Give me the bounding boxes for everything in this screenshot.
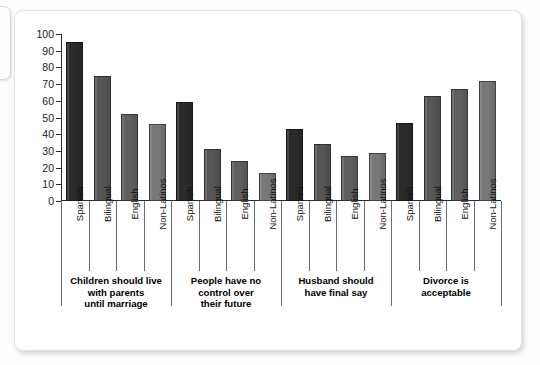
group-caption: Husband shouldhave final say <box>281 275 391 298</box>
bar-series-container <box>61 34 501 201</box>
group-caption-container: Children should livewith parentsuntil ma… <box>61 201 501 306</box>
y-axis-tick-label: 90 <box>42 45 54 56</box>
group-caption-line: with parents <box>61 287 171 299</box>
y-axis-tick-label: 60 <box>42 96 54 107</box>
plot-area: 1009080706050403020100 <box>61 34 501 211</box>
group-caption-line: People have no <box>171 275 281 287</box>
group-caption: Children should livewith parentsuntil ma… <box>61 275 171 310</box>
group-divider <box>501 201 502 306</box>
group-caption-line: control over <box>171 287 281 299</box>
chart-panel: 1009080706050403020100 SpanishBilingualE… <box>14 10 522 351</box>
bar <box>451 89 468 201</box>
y-axis-tick-label: 80 <box>42 62 54 73</box>
page-edge-artifact <box>0 6 11 80</box>
group-caption: Divorce isacceptable <box>391 275 501 298</box>
group-caption-line: until marriage <box>61 298 171 310</box>
group-caption-line: acceptable <box>391 287 501 299</box>
y-axis-tick-label: 20 <box>42 162 54 173</box>
group-caption-line: Children should live <box>61 275 171 287</box>
group-caption: People have nocontrol overtheir future <box>171 275 281 310</box>
y-axis-tick-label: 40 <box>42 129 54 140</box>
group-caption-line: their future <box>171 298 281 310</box>
group-caption-line: have final say <box>281 287 391 299</box>
group-caption-line: Divorce is <box>391 275 501 287</box>
y-axis-tick-label: 100 <box>36 29 54 40</box>
y-axis-tick-label: 70 <box>42 79 54 90</box>
y-axis-tick-label: 30 <box>42 146 54 157</box>
bar <box>94 76 111 201</box>
bar <box>66 42 83 201</box>
group-caption-line: Husband should <box>281 275 391 287</box>
y-axis-tick-label: 50 <box>42 112 54 123</box>
y-axis-tick-label: 0 <box>48 196 54 207</box>
figure-stage: 1009080706050403020100 SpanishBilingualE… <box>0 0 540 365</box>
y-axis-tick-label: 10 <box>42 179 54 190</box>
